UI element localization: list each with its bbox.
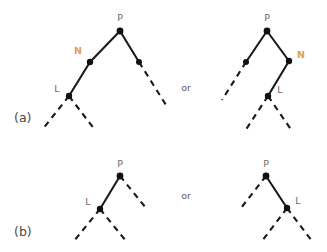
figure-canvas: P N L or P N L (a): [0, 0, 327, 252]
node-a-right-L[interactable]: [265, 93, 271, 99]
node-a-left-sister[interactable]: [136, 59, 142, 65]
node-b-left-P[interactable]: [117, 173, 124, 180]
node-label-a-left-N: N: [74, 45, 82, 56]
node-label-a-left-P: P: [117, 12, 123, 23]
panel-b-label: (b): [14, 224, 32, 239]
node-b-right-P[interactable]: [263, 173, 270, 180]
node-label-a-right-P: P: [264, 12, 270, 23]
node-label-b-right-L: L: [295, 195, 301, 206]
node-label-b-left-L: L: [85, 196, 91, 207]
node-b-right-L[interactable]: [284, 205, 290, 211]
node-label-b-left-P: P: [117, 158, 123, 169]
node-a-right-P[interactable]: [264, 28, 271, 35]
node-a-right-N[interactable]: [286, 58, 292, 64]
figure-background: [0, 0, 327, 252]
node-a-left-P[interactable]: [117, 28, 124, 35]
node-label-a-right-N: N: [297, 49, 305, 60]
node-label-b-right-P: P: [263, 158, 269, 169]
node-b-left-L[interactable]: [97, 206, 103, 212]
node-a-left-L[interactable]: [66, 93, 72, 99]
or-label-b: or: [181, 190, 191, 201]
node-a-left-N[interactable]: [87, 59, 93, 65]
panel-a-label: (a): [14, 110, 31, 125]
node-label-a-right-L: L: [277, 84, 283, 95]
node-label-a-left-L: L: [54, 83, 60, 94]
or-label-a: or: [181, 82, 191, 93]
node-a-right-sister[interactable]: [243, 59, 249, 65]
